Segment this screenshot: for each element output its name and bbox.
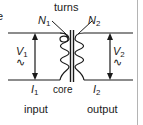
output-label: output	[87, 104, 118, 115]
core-label: core	[53, 85, 72, 95]
secondary-coil-windings	[75, 33, 84, 80]
secondary-voltage-arrowhead-down	[107, 73, 113, 80]
secondary-current-subscript: 2	[96, 88, 100, 97]
primary-current-subscript: 1	[34, 88, 38, 97]
turns-label: turns	[54, 2, 78, 13]
secondary-turns-label: N2	[88, 15, 100, 26]
primary-ac-source-icon: ∿	[16, 57, 25, 68]
primary-turns-symbol: N	[38, 14, 46, 26]
primary-turns-leader-line	[52, 21, 66, 34]
primary-turns-subscript: 1	[46, 19, 50, 28]
secondary-turns-symbol: N	[88, 14, 96, 26]
primary-voltage-arrowhead-up	[32, 33, 38, 40]
secondary-current-label: I2	[93, 84, 100, 95]
input-label: input	[24, 104, 48, 115]
primary-current-label: I1	[31, 84, 38, 95]
transformer-diagram-figure: e turns N1 N2 V1 ∿ V2 ∿ I1 core I2 input…	[0, 0, 143, 125]
primary-turns-label: N1	[38, 15, 50, 26]
clipped-edge-text: e	[0, 11, 3, 22]
secondary-ac-source-icon: ∿	[113, 57, 122, 68]
primary-voltage-arrowhead-down	[32, 73, 38, 80]
secondary-voltage-arrowhead-up	[107, 33, 113, 40]
secondary-turns-subscript: 2	[96, 19, 100, 28]
